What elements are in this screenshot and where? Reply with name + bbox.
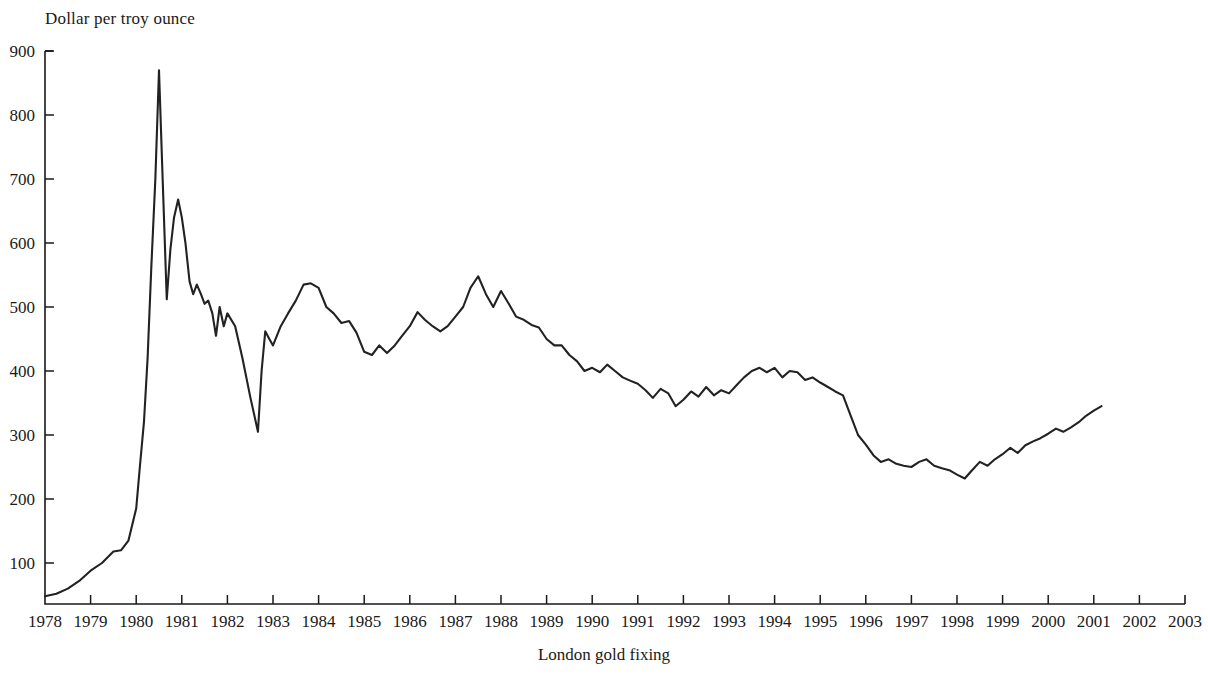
gold-price-chart: Dollar per troy ounce 900800700600500400… — [0, 0, 1208, 678]
x-tick-label: 1997 — [894, 612, 929, 631]
x-tick-label: 1978 — [28, 612, 62, 631]
y-tick-label: 800 — [10, 106, 36, 125]
x-axis-ticks — [91, 595, 1140, 604]
x-tick-label: 2003 — [1168, 612, 1202, 631]
x-tick-label: 1982 — [210, 612, 244, 631]
y-axis-ticks — [45, 51, 54, 563]
x-tick-label: 1989 — [530, 612, 564, 631]
x-tick-label: 1996 — [849, 612, 883, 631]
x-tick-label: 2001 — [1077, 612, 1111, 631]
y-tick-label: 300 — [10, 426, 36, 445]
x-tick-label: 1999 — [986, 612, 1020, 631]
x-tick-label: 1991 — [621, 612, 655, 631]
y-tick-label: 500 — [10, 298, 36, 317]
chart-caption: London gold fixing — [0, 645, 1208, 665]
x-tick-label: 1985 — [347, 612, 381, 631]
y-tick-label: 900 — [10, 42, 36, 61]
y-tick-label: 200 — [10, 490, 36, 509]
y-tick-label: 700 — [10, 170, 36, 189]
x-tick-label: 2002 — [1122, 612, 1156, 631]
x-tick-label: 1980 — [119, 612, 153, 631]
y-tick-label: 400 — [10, 362, 36, 381]
x-axis-tick-labels: 1978197919801981198219831984198519861987… — [28, 612, 1202, 631]
x-tick-label: 1981 — [165, 612, 199, 631]
x-tick-label: 1995 — [803, 612, 837, 631]
x-tick-label: 1979 — [74, 612, 108, 631]
x-tick-label: 1990 — [575, 612, 609, 631]
gold-price-line — [45, 70, 1102, 596]
x-tick-label: 1994 — [758, 612, 793, 631]
x-tick-label: 1983 — [256, 612, 290, 631]
x-tick-label: 2000 — [1031, 612, 1065, 631]
x-tick-label: 1986 — [393, 612, 427, 631]
y-tick-label: 600 — [10, 234, 36, 253]
x-tick-label: 1992 — [666, 612, 700, 631]
x-tick-label: 1984 — [302, 612, 337, 631]
chart-plot-area: 900800700600500400300200100 197819791980… — [0, 0, 1208, 678]
x-tick-label: 1987 — [438, 612, 473, 631]
y-tick-label: 100 — [10, 554, 36, 573]
x-tick-label: 1988 — [484, 612, 518, 631]
y-axis-tick-labels: 900800700600500400300200100 — [10, 42, 36, 573]
x-tick-label: 1993 — [712, 612, 746, 631]
x-tick-label: 1998 — [940, 612, 974, 631]
